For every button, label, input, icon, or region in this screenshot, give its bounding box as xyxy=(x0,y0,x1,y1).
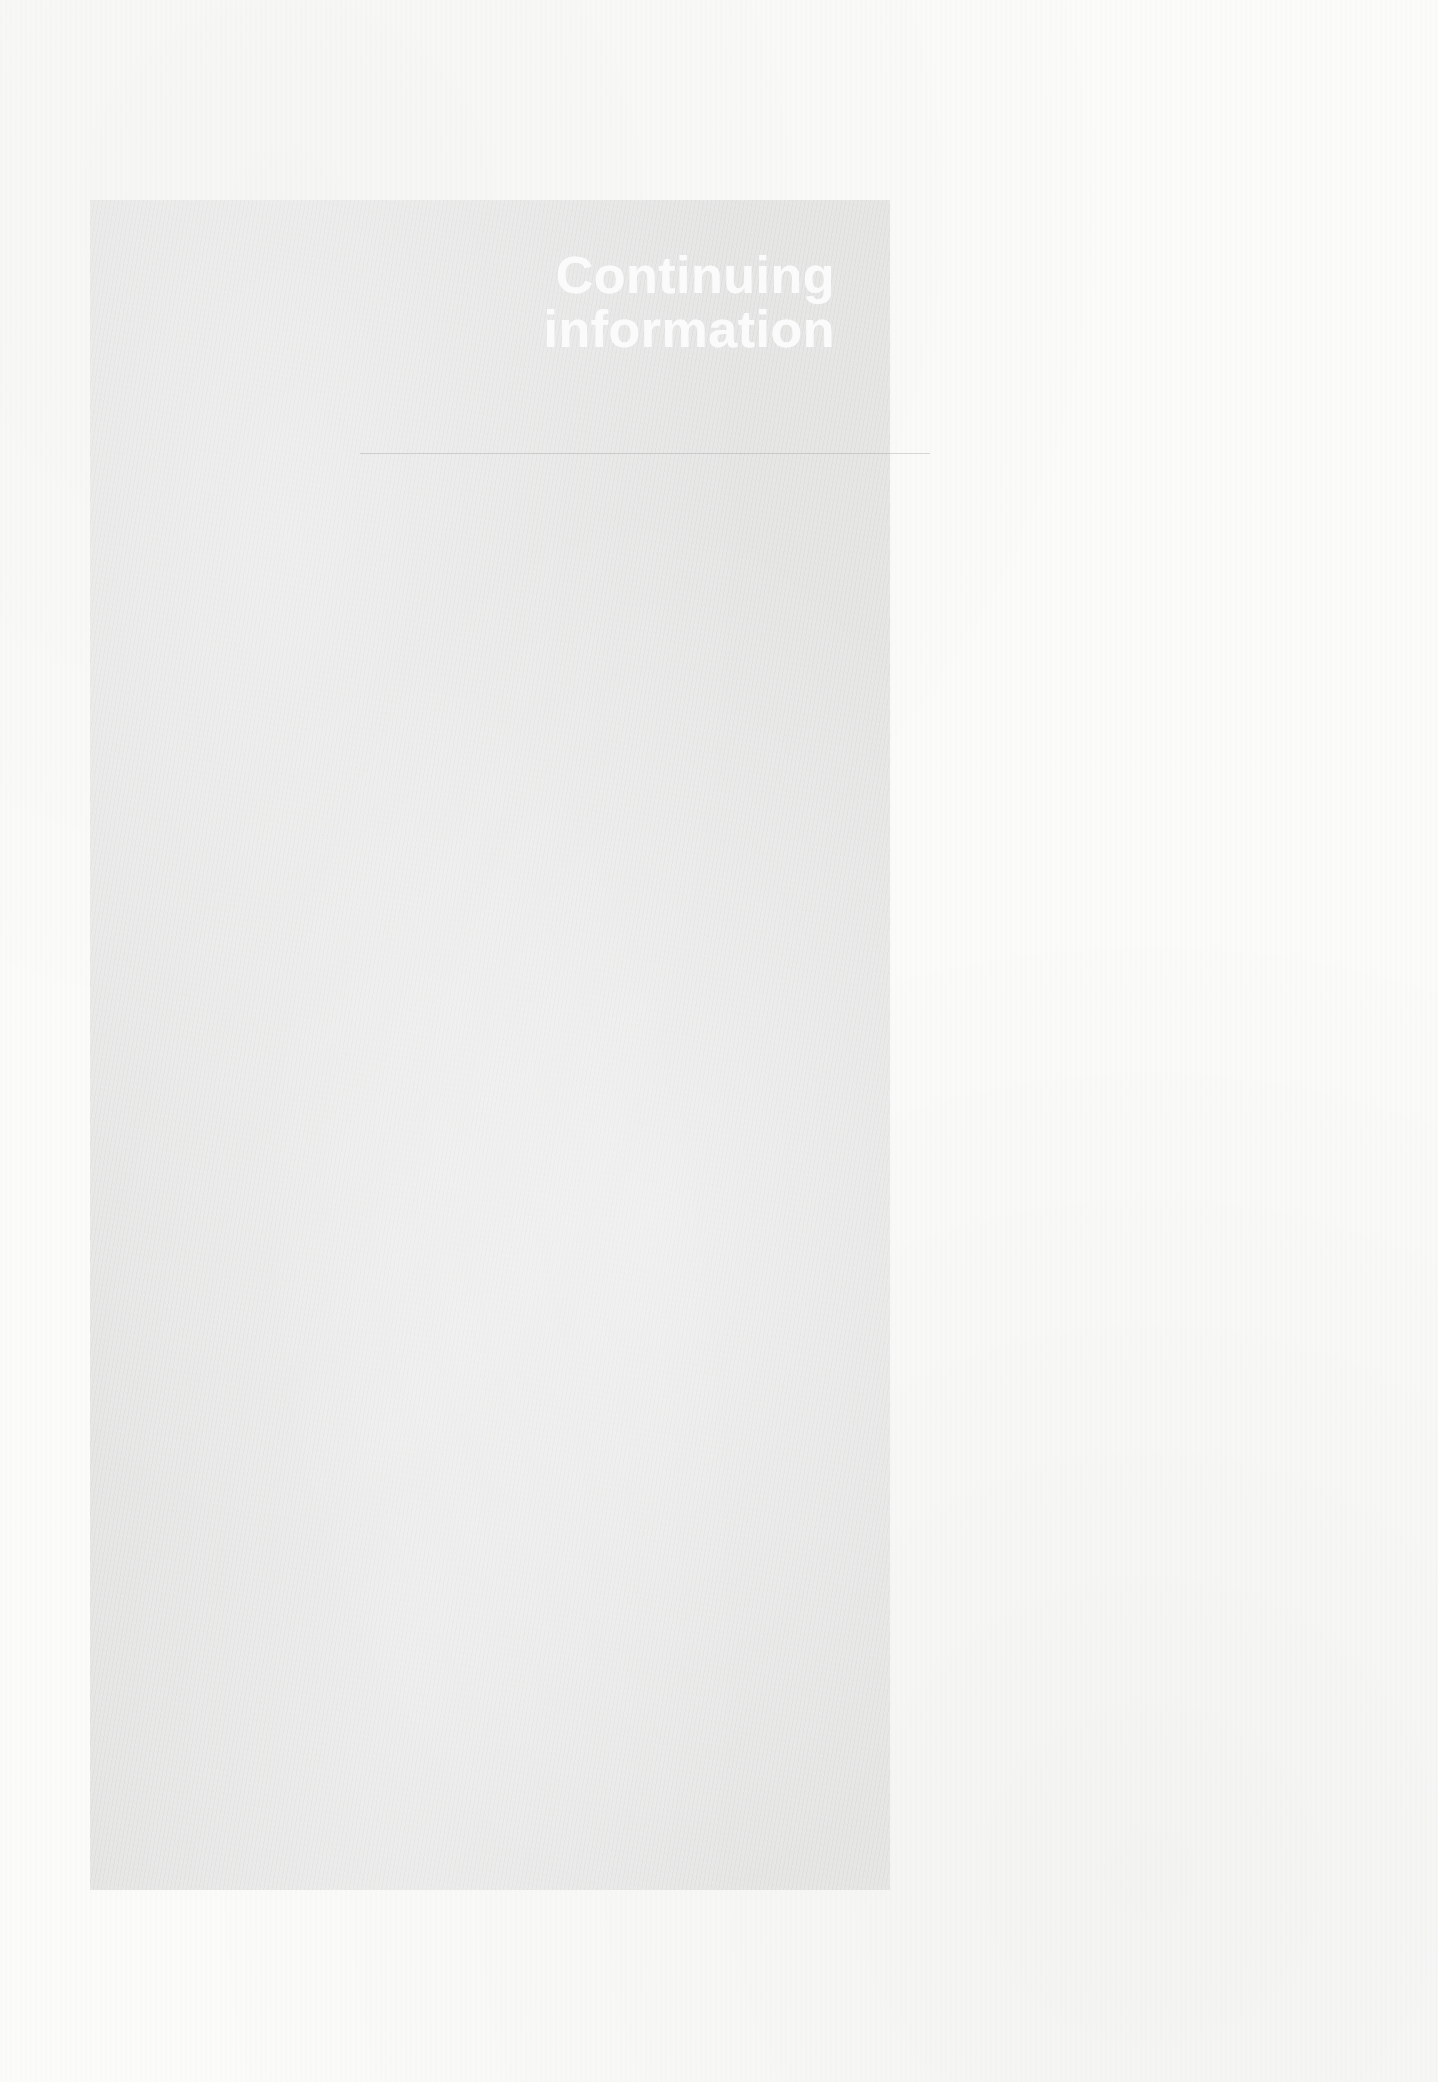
horizontal-divider xyxy=(360,453,930,454)
panel-title: Continuing information xyxy=(544,248,835,356)
panel-title-line-2: information xyxy=(544,302,835,356)
panel-title-line-1: Continuing xyxy=(544,248,835,302)
